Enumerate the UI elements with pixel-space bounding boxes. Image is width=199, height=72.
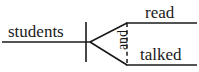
predicate-lower-label: talked: [140, 46, 182, 63]
subject-label: students: [8, 23, 64, 40]
predicate-upper-label: read: [145, 4, 174, 21]
conjunction-label: and: [116, 30, 130, 50]
sentence-diagram: students read talked and: [0, 0, 199, 72]
